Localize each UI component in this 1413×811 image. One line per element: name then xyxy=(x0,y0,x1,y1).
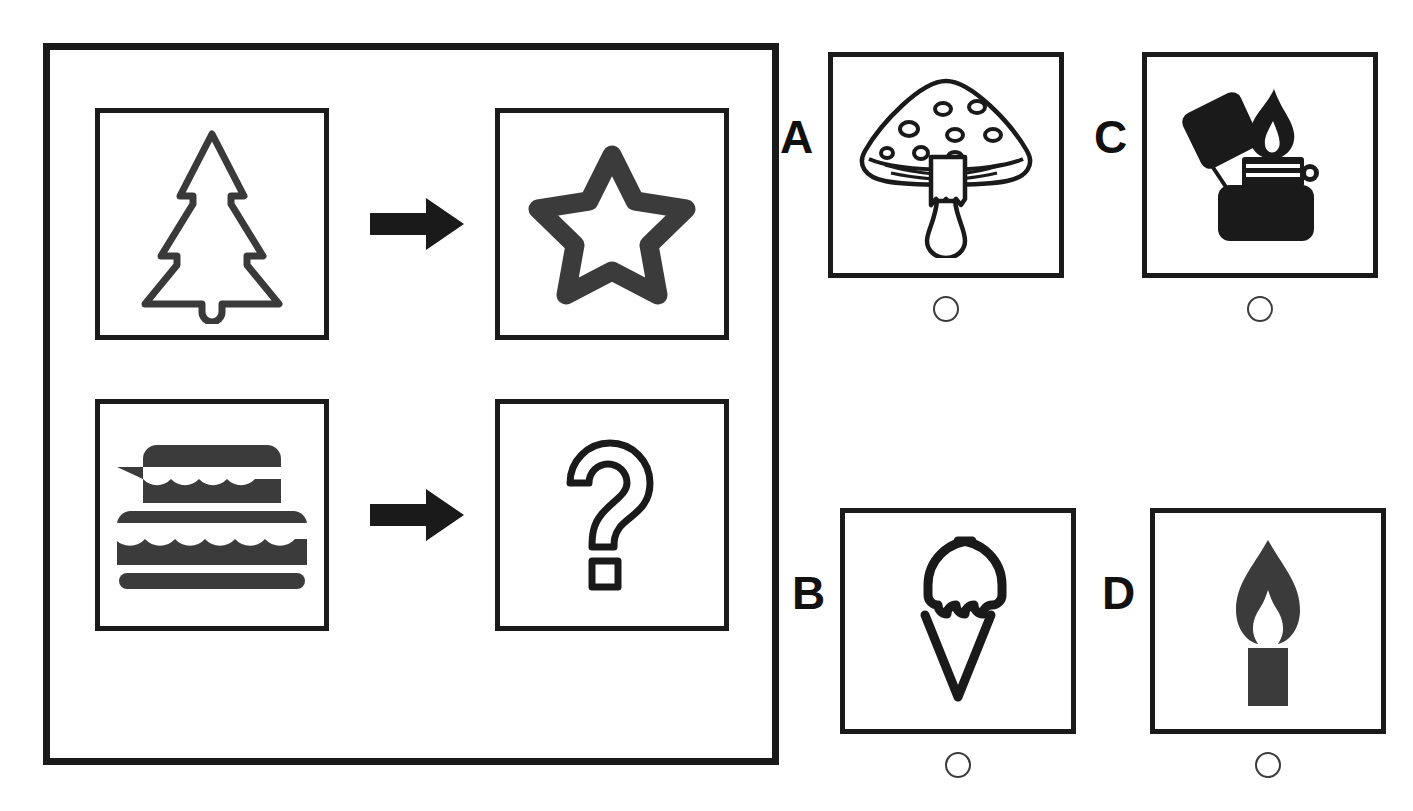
option-C-letter: C xyxy=(1094,114,1127,160)
option-D-letter: D xyxy=(1102,570,1135,616)
analogy-cell-answer-slot xyxy=(495,399,729,631)
option-B-letter: B xyxy=(792,570,825,616)
question-mark-icon xyxy=(557,439,667,591)
analogy-cell-star xyxy=(495,108,729,340)
option-A-box[interactable] xyxy=(828,52,1064,278)
analogy-panel xyxy=(43,43,779,765)
option-D-box[interactable] xyxy=(1150,508,1386,734)
option-C[interactable]: C xyxy=(1142,52,1378,322)
candle-icon xyxy=(1208,536,1328,706)
option-C-box[interactable] xyxy=(1142,52,1378,278)
right-arrow-icon xyxy=(370,194,466,254)
analogy-row-2 xyxy=(50,399,772,631)
option-A[interactable]: A xyxy=(828,52,1064,322)
right-arrow-icon xyxy=(370,485,466,545)
option-B[interactable]: B xyxy=(840,508,1076,778)
option-D-radio-wrap[interactable] xyxy=(1150,752,1386,778)
ice-cream-cone-icon xyxy=(888,531,1028,711)
analogy-cell-tree xyxy=(95,108,329,340)
analogy-row-1 xyxy=(50,108,772,340)
option-D-radio[interactable] xyxy=(1255,752,1281,778)
option-B-radio-wrap[interactable] xyxy=(840,752,1076,778)
option-C-radio[interactable] xyxy=(1247,296,1273,322)
option-B-box[interactable] xyxy=(840,508,1076,734)
mushroom-icon xyxy=(851,73,1041,258)
option-D[interactable]: D xyxy=(1150,508,1386,778)
option-A-radio-wrap[interactable] xyxy=(828,296,1064,322)
relation-arrow-2 xyxy=(370,485,466,545)
relation-arrow-1 xyxy=(370,194,466,254)
birthday-cake-icon xyxy=(117,435,307,595)
option-A-letter: A xyxy=(780,114,813,160)
star-icon xyxy=(522,139,702,309)
christmas-tree-icon xyxy=(127,124,297,324)
option-B-radio[interactable] xyxy=(945,752,971,778)
option-C-radio-wrap[interactable] xyxy=(1142,296,1378,322)
analogy-cell-cake xyxy=(95,399,329,631)
lighter-icon xyxy=(1170,85,1350,245)
option-A-radio[interactable] xyxy=(933,296,959,322)
